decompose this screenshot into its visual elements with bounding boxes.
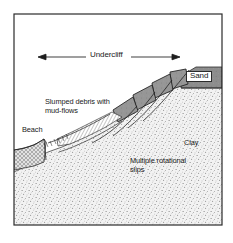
clay-label: Clay [184, 139, 198, 148]
undercliff-label: Undercliff [88, 51, 125, 60]
rotational-slips-label: Multiple rotational slips [130, 157, 186, 174]
cross-section-figure [0, 0, 233, 243]
sand-label: Sand [186, 71, 212, 82]
beach-label: Beach [22, 126, 42, 135]
slumped-debris-label: Slumped debris with mud-flows [45, 98, 110, 115]
